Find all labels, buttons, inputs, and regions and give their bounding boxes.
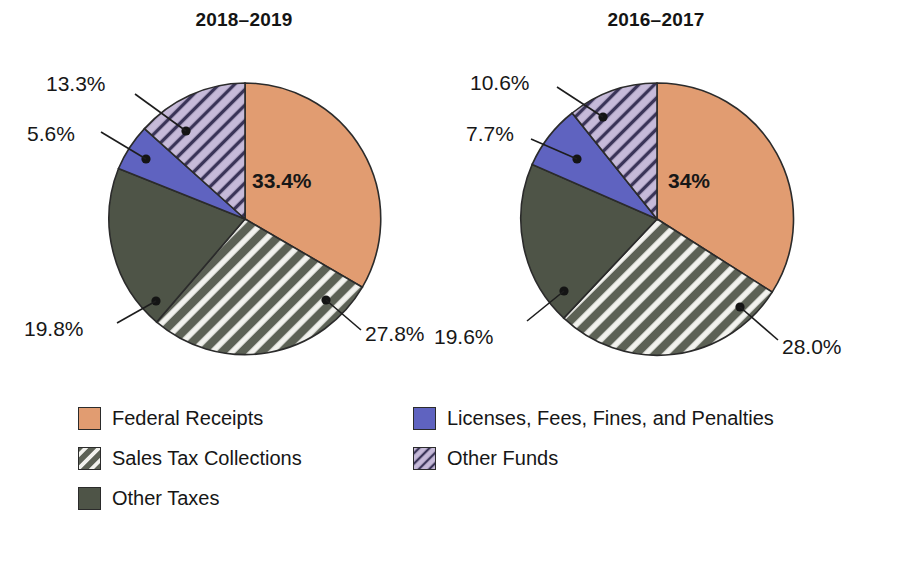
legend-swatch-other-taxes <box>78 487 101 510</box>
legend-label-licenses: Licenses, Fees, Fines, and Penalties <box>447 408 774 428</box>
label-sales-tax-right: 28.0% <box>782 335 842 358</box>
label-licenses-right: 7.7% <box>466 122 514 145</box>
legend-label-other-taxes: Other Taxes <box>112 488 219 508</box>
label-other-taxes-left: 19.8% <box>24 317 84 340</box>
label-federal-receipts-left: 33.4% <box>252 169 312 192</box>
legend-swatch-pattern-other-funds <box>414 448 435 469</box>
legend-swatch-pattern-sales-tax <box>79 448 100 469</box>
label-other-taxes-right: 19.6% <box>434 325 494 348</box>
legend-swatch-federal-receipts <box>78 407 101 430</box>
legend-label-other-funds: Other Funds <box>447 448 558 468</box>
label-other-funds-left: 13.3% <box>46 72 106 95</box>
pie-left: 33.4% 13.3% 5.6% 19.8% 27.8% <box>24 72 425 355</box>
legend-item-other-taxes: Other Taxes <box>78 478 302 518</box>
pie-chart-figure: 2018–2019 2016–2017 <box>0 0 901 571</box>
legend-label-sales-tax: Sales Tax Collections <box>112 448 302 468</box>
label-sales-tax-left: 27.8% <box>365 322 425 345</box>
legend-swatch-sales-tax <box>78 447 101 470</box>
legend-item-other-funds: Other Funds <box>413 438 774 478</box>
label-licenses-left: 5.6% <box>27 122 75 145</box>
label-other-funds-right: 10.6% <box>470 71 530 94</box>
legend-item-sales-tax: Sales Tax Collections <box>78 438 302 478</box>
legend-swatch-licenses <box>413 407 436 430</box>
legend-swatch-other-funds <box>413 447 436 470</box>
pie-right: 34% 10.6% 7.7% 19.6% 28.0% <box>434 71 842 358</box>
label-federal-receipts-right: 34% <box>668 169 710 192</box>
legend-label-federal-receipts: Federal Receipts <box>112 408 263 428</box>
legend-column-right: Licenses, Fees, Fines, and Penalties Oth… <box>413 398 774 478</box>
legend-column-left: Federal Receipts Sales Tax Collections O… <box>78 398 302 518</box>
legend-item-federal-receipts: Federal Receipts <box>78 398 302 438</box>
legend-item-licenses: Licenses, Fees, Fines, and Penalties <box>413 398 774 438</box>
